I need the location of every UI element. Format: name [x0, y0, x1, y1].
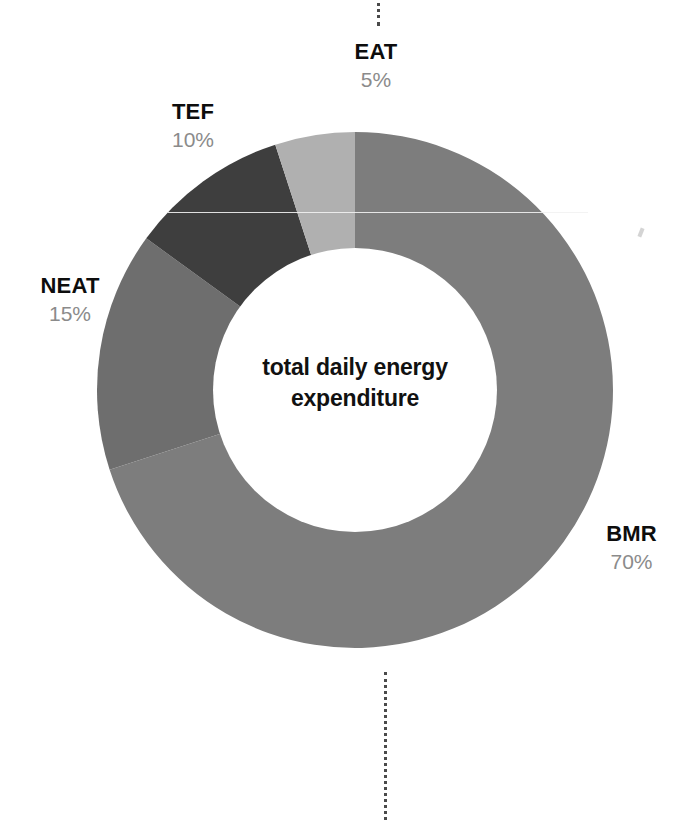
center-caption-line-1: total daily energy: [205, 352, 505, 383]
slice-callout-bmr: BMR 70%: [568, 522, 695, 575]
dotted-connector-bottom-icon: [384, 672, 387, 820]
figure-canvas: total daily energy expenditure EAT 5% TE…: [0, 0, 695, 834]
slice-value-eat: 5%: [276, 67, 476, 93]
slice-label-neat: NEAT: [0, 274, 140, 299]
slice-value-tef: 10%: [123, 127, 263, 153]
slice-label-tef: TEF: [123, 100, 263, 125]
scan-artifact-line: [168, 212, 588, 213]
slice-callout-eat: EAT 5%: [276, 40, 476, 93]
slice-label-bmr: BMR: [568, 522, 695, 547]
slice-value-bmr: 70%: [568, 549, 695, 575]
donut-chart-svg: [0, 0, 695, 834]
donut-center-caption: total daily energy expenditure: [205, 352, 505, 414]
slice-callout-tef: TEF 10%: [123, 100, 263, 153]
slice-label-eat: EAT: [276, 40, 476, 65]
center-caption-line-2: expenditure: [205, 383, 505, 414]
slice-callout-neat: NEAT 15%: [0, 274, 140, 327]
donut-chart: [0, 0, 695, 834]
slice-value-neat: 15%: [0, 301, 140, 327]
